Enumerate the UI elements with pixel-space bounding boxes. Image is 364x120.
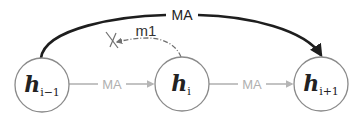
right-edge-label: MA	[242, 77, 262, 92]
top-arc-label: MA	[172, 7, 194, 23]
node-subscript: i	[187, 85, 191, 98]
m1-arc	[117, 38, 181, 57]
node-h-i-plus-1: hi+1	[294, 57, 348, 111]
node-base-label: h	[171, 70, 187, 96]
edge-top-arc: MA	[41, 7, 321, 58]
node-subscript: i−1	[40, 86, 60, 99]
edge-m1-arc: m1	[106, 22, 181, 57]
top-arc-right	[198, 15, 321, 55]
m1-label: m1	[136, 22, 157, 39]
node-h-i-minus-1: hi−1	[15, 58, 69, 112]
cross-mark-icon	[106, 32, 118, 48]
node-subscript: i+1	[319, 85, 339, 98]
edge-right: MA	[209, 77, 292, 92]
ma-diagram: MA m1 MA MA hi−1 hi h	[0, 0, 364, 120]
node-h-i: hi	[155, 57, 209, 111]
left-edge-label: MA	[102, 77, 122, 92]
node-base-label: h	[24, 71, 40, 97]
node-base-label: h	[303, 70, 319, 96]
edge-left: MA	[69, 77, 153, 92]
